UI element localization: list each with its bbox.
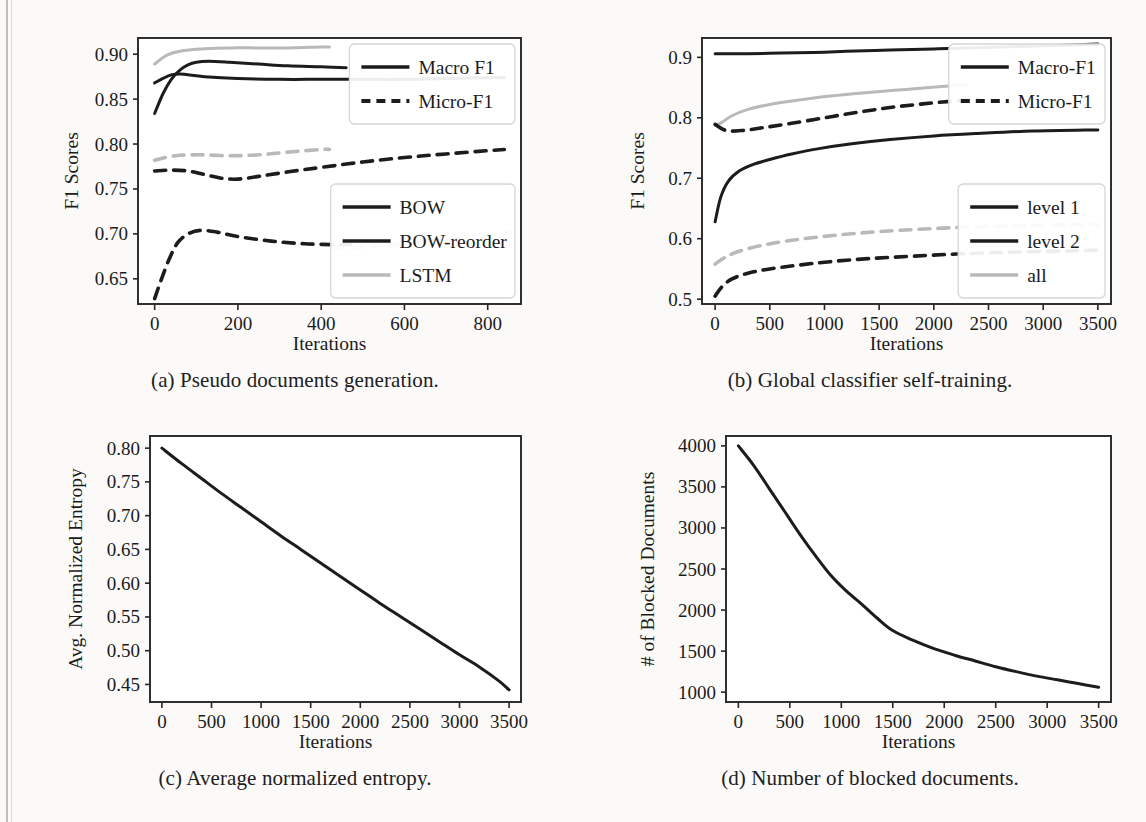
x-tick-label: 2500 <box>977 711 1015 732</box>
y-axis-title: F1 Scores <box>630 132 648 209</box>
caption-b: (b) Global classifier self-training. <box>620 368 1120 393</box>
y-tick-label: 0.50 <box>107 640 140 661</box>
y-tick-label: 0.70 <box>107 505 140 526</box>
y-tick-label: 1500 <box>678 641 716 662</box>
y-axis-title: # of Blocked Documents <box>637 472 658 666</box>
x-tick-label: 1500 <box>292 711 330 732</box>
subplot-c: 0.450.500.550.600.650.700.750.8005001000… <box>60 418 530 758</box>
x-axis-title: Iterations <box>882 731 956 752</box>
x-tick-label: 0 <box>150 313 160 334</box>
legend-2-a: BOWBOW-reorderLSTM <box>331 184 515 298</box>
plot-b: 0.50.60.70.80.90500100015002000250030003… <box>630 38 1117 354</box>
subplot-d: 1000150020002500300035004000050010001500… <box>630 418 1120 758</box>
x-tick-label: 3500 <box>1080 711 1118 732</box>
y-tick-label: 3000 <box>678 517 716 538</box>
x-tick-label: 600 <box>390 313 419 334</box>
legend-label: level 2 <box>1027 231 1080 252</box>
x-tick-label: 1000 <box>805 313 843 334</box>
legend-box <box>349 44 515 124</box>
plot-d: 1000150020002500300035004000050010001500… <box>637 435 1118 752</box>
y-tick-label: 0.80 <box>107 438 140 459</box>
x-tick-label: 2500 <box>391 711 429 732</box>
x-tick-label: 2000 <box>341 711 379 732</box>
subplot-b: 0.50.60.70.80.90500100015002000250030003… <box>630 20 1120 360</box>
x-tick-label: 2000 <box>925 711 963 732</box>
y-tick-label: 2000 <box>678 600 716 621</box>
y-tick-label: 0.5 <box>668 289 692 310</box>
legend-label: Micro-F1 <box>418 91 493 112</box>
subplot-a-canvas: 0.650.700.750.800.850.900200400600800Ite… <box>60 20 530 360</box>
x-tick-label: 1500 <box>874 711 912 732</box>
y-axis-title: Avg. Normalized Entropy <box>65 468 86 670</box>
subplot-b-canvas: 0.50.60.70.80.90500100015002000250030003… <box>630 20 1120 360</box>
legend-label: LSTM <box>400 265 452 286</box>
y-tick-label: 0.60 <box>107 573 140 594</box>
plot-a: 0.650.700.750.800.850.900200400600800Ite… <box>61 38 521 354</box>
x-tick-label: 500 <box>756 313 785 334</box>
y-tick-label: 0.55 <box>107 606 140 627</box>
x-tick-label: 3000 <box>1024 313 1062 334</box>
y-tick-label: 0.85 <box>95 89 128 110</box>
plot-frame <box>150 436 521 702</box>
subplot-d-canvas: 1000150020002500300035004000050010001500… <box>630 418 1120 758</box>
caption-d: (d) Number of blocked documents. <box>620 766 1120 791</box>
y-axis-title: F1 Scores <box>61 132 82 209</box>
subplot-c-canvas: 0.450.500.550.600.650.700.750.8005001000… <box>60 418 530 758</box>
y-tick-label: 0.75 <box>95 178 128 199</box>
y-tick-label: 4000 <box>678 435 716 456</box>
x-tick-label: 0 <box>710 313 720 334</box>
x-axis-title: Iterations <box>870 333 944 354</box>
page-binding-edge <box>6 0 8 822</box>
x-tick-label: 400 <box>307 313 336 334</box>
y-tick-label: 0.8 <box>668 107 692 128</box>
x-axis-title: Iterations <box>293 333 367 354</box>
legend-1-a: Macro F1Micro-F1 <box>349 44 515 124</box>
y-tick-label: 2500 <box>678 559 716 580</box>
subplot-a: 0.650.700.750.800.850.900200400600800Ite… <box>60 20 530 360</box>
x-tick-label: 800 <box>473 313 502 334</box>
y-tick-label: 0.6 <box>668 228 692 249</box>
y-tick-label: 0.9 <box>668 47 692 68</box>
x-tick-label: 2500 <box>970 313 1008 334</box>
y-tick-label: 0.65 <box>107 539 140 560</box>
x-tick-label: 1000 <box>822 711 860 732</box>
x-axis-title: Iterations <box>299 731 373 752</box>
legend-label: all <box>1027 265 1047 286</box>
x-tick-label: 3000 <box>1028 711 1066 732</box>
caption-a: (a) Pseudo documents generation. <box>60 368 530 393</box>
x-tick-label: 200 <box>224 313 253 334</box>
x-tick-label: 3500 <box>490 711 528 732</box>
y-tick-label: 0.65 <box>95 268 128 289</box>
x-tick-label: 3000 <box>440 711 478 732</box>
legend-label: Micro-F1 <box>1018 91 1093 112</box>
plot-c: 0.450.500.550.600.650.700.750.8005001000… <box>65 436 528 752</box>
y-tick-label: 3500 <box>678 476 716 497</box>
legend-label: Macro-F1 <box>1018 57 1096 78</box>
legend-1-b: Macro-F1Micro-F1 <box>949 44 1105 124</box>
x-tick-label: 500 <box>776 711 805 732</box>
plot-frame <box>726 436 1111 702</box>
page-binding-edge-secondary <box>11 0 12 822</box>
legend-2-b: level 1level 2all <box>958 184 1105 298</box>
y-tick-label: 0.7 <box>668 168 692 189</box>
x-tick-label: 2000 <box>915 313 953 334</box>
figure-page: 0.650.700.750.800.850.900200400600800Ite… <box>0 0 1146 822</box>
y-tick-label: 0.90 <box>95 44 128 65</box>
y-tick-label: 0.45 <box>107 674 140 695</box>
x-tick-label: 3500 <box>1079 313 1117 334</box>
caption-c: (c) Average normalized entropy. <box>60 766 530 791</box>
y-tick-label: 0.80 <box>95 134 128 155</box>
x-tick-label: 0 <box>734 711 744 732</box>
legend-label: BOW <box>400 197 446 218</box>
x-tick-label: 500 <box>197 711 226 732</box>
legend-label: Macro F1 <box>418 57 494 78</box>
legend-box <box>949 44 1105 124</box>
y-tick-label: 0.75 <box>107 471 140 492</box>
x-tick-label: 1500 <box>860 313 898 334</box>
legend-label: BOW-reorder <box>400 231 508 252</box>
legend-label: level 1 <box>1027 197 1080 218</box>
x-tick-label: 1000 <box>242 711 280 732</box>
x-tick-label: 0 <box>157 711 167 732</box>
y-tick-label: 1000 <box>678 682 716 703</box>
y-tick-label: 0.70 <box>95 223 128 244</box>
